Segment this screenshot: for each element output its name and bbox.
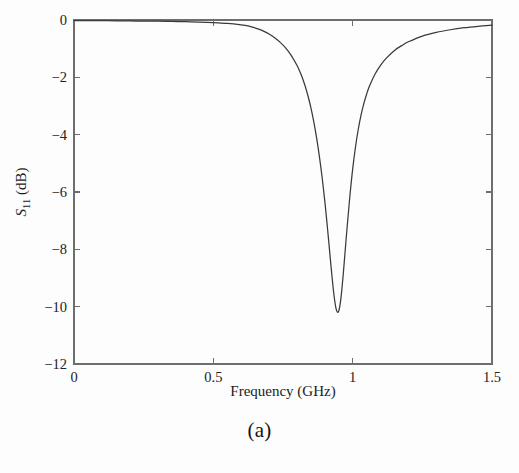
x-axis-title: Frequency (GHz) [230,383,335,400]
y-tick-label: −8 [52,241,67,257]
y-axis-tick-labels: 0−2−4−6−8−10−12 [44,12,67,372]
plot-frame [74,20,492,364]
x-tick-label: 1 [349,369,356,385]
s11-curve [74,21,492,313]
figure-panel: 00.511.5 0−2−4−6−8−10−12 Frequency (GHz)… [0,0,519,473]
y-axis-ticks [74,77,492,306]
y-tick-label: −12 [44,356,67,372]
x-tick-label: 0.5 [204,369,222,385]
y-tick-label: −6 [52,184,67,200]
x-tick-label: 0 [70,369,77,385]
figure-caption: (a) [0,418,519,443]
x-axis-ticks [213,20,352,364]
axis-frame [74,20,492,364]
y-tick-label: −2 [52,69,67,85]
y-tick-label: 0 [60,12,67,28]
y-tick-label: −10 [44,299,67,315]
y-axis-title: S11 (dB) [13,168,32,217]
chart-canvas: 00.511.5 0−2−4−6−8−10−12 Frequency (GHz)… [0,0,519,473]
x-tick-label: 1.5 [483,369,501,385]
y-tick-label: −4 [52,127,68,143]
y-axis-unit: (dB) [13,168,30,199]
y-axis-subscript: 11 [21,199,32,209]
